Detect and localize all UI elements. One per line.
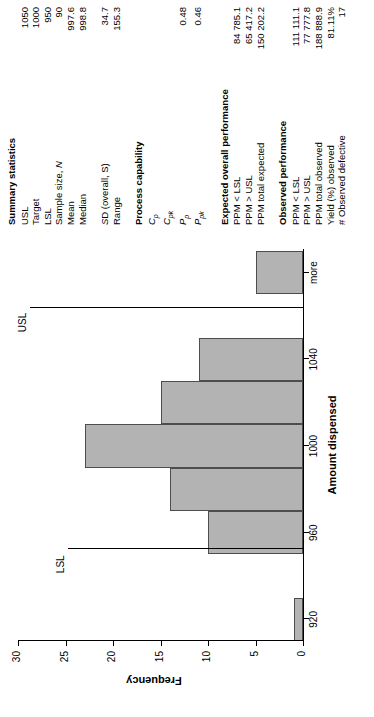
summary-label: USL <box>19 199 31 225</box>
summary-statistics-rows: USL1050Target1000LSL950Sample size, N90M… <box>19 7 89 225</box>
expected-performance-rows: PPM < LSL84 785.1PPM > USL65 417.2PPM to… <box>231 7 266 225</box>
observed-value: 17 <box>336 7 348 18</box>
summary-value: 950 <box>42 7 54 23</box>
capability-row: Cp <box>146 7 161 225</box>
summary-statistics-block-2: SD (overall, S)34.7Range155.3 <box>99 7 122 225</box>
summary-row: Median998.8 <box>77 7 89 225</box>
histogram-bar <box>170 468 303 511</box>
expected-row: PPM > USL65 417.2 <box>243 7 255 225</box>
expected-label: PPM < LSL <box>231 169 243 225</box>
y-axis-tick-label: 0 <box>296 651 307 681</box>
summary-statistics-rows-2: SD (overall, S)34.7Range155.3 <box>99 7 122 225</box>
y-axis-tick-label: 30 <box>11 651 22 681</box>
process-capability-block: Process capability CpCpkPp0.48Ppk0.46 <box>133 7 208 225</box>
spec-limit-label: LSL <box>55 555 66 573</box>
expected-performance-block: Expected overall performance PPM < LSL84… <box>219 7 266 225</box>
y-axis-tick <box>256 641 257 646</box>
observed-performance-rows: PPM < LSL111 111.1PPM > USL77 777.8PPM t… <box>290 7 348 225</box>
observed-label: PPM total observed <box>313 134 325 225</box>
observed-row: PPM total observed188 888.9 <box>313 7 325 225</box>
summary-statistics-title: Summary statistics <box>6 7 18 225</box>
observed-label: PPM < LSL <box>290 169 302 225</box>
observed-row: PPM < LSL111 111.1 <box>290 7 302 225</box>
histogram-bar <box>85 424 304 467</box>
summary2-label: Range <box>111 189 123 225</box>
y-axis-tick <box>208 641 209 646</box>
expected-value: 65 417.2 <box>243 7 255 44</box>
histogram-bar <box>256 251 304 294</box>
observed-value: 111 111.1 <box>290 7 302 46</box>
x-axis-tick-label: 1040 <box>308 337 319 381</box>
capability-value: 0.48 <box>177 7 192 26</box>
histogram-chart: 051015202530 92096010001040more LSLUSL A… <box>8 239 366 703</box>
summary2-row: SD (overall, S)34.7 <box>99 7 111 225</box>
expected-label: PPM total expected <box>255 135 267 225</box>
observed-value: 77 777.8 <box>301 7 313 44</box>
expected-row: PPM total expected150 202.2 <box>255 7 267 225</box>
summary-value: 997.6 <box>65 7 77 31</box>
observed-performance-title: Observed performance <box>277 7 289 225</box>
y-axis-tick <box>18 641 19 646</box>
summary-statistics-block: Summary statistics USL1050Target1000LSL9… <box>6 7 88 225</box>
expected-value: 150 202.2 <box>255 7 267 49</box>
summary-row: USL1050 <box>19 7 31 225</box>
observed-label: Yield (%) observed <box>325 137 337 225</box>
observed-value: 81.11% <box>325 7 337 39</box>
y-axis-title: Frequency <box>54 675 254 687</box>
spec-limit-line <box>30 307 304 308</box>
y-axis-tick <box>113 641 114 646</box>
summary2-label: SD (overall, S) <box>99 155 111 225</box>
summary-value: 1000 <box>30 7 42 28</box>
summary-row: Target1000 <box>30 7 42 225</box>
y-axis-tick <box>66 641 67 646</box>
summary2-value: 34.7 <box>99 7 111 26</box>
expected-label: PPM > USL <box>243 167 255 225</box>
summary-label: Median <box>77 186 89 225</box>
expected-performance-title: Expected overall performance <box>219 7 231 225</box>
process-capability-rows: CpCpkPp0.48Ppk0.46 <box>146 7 208 225</box>
observed-row: PPM > USL77 777.8 <box>301 7 313 225</box>
plot-area <box>18 251 303 641</box>
y-axis-tick <box>161 641 162 646</box>
summary2-row: Range155.3 <box>111 7 123 225</box>
capability-value: 0.46 <box>192 7 207 26</box>
y-axis-tick <box>303 641 304 646</box>
x-axis-tick-label: more <box>308 251 319 295</box>
expected-value: 84 785.1 <box>231 7 243 44</box>
observed-row: Yield (%) observed81.11% <box>325 7 337 225</box>
statistics-panel: Summary statistics USL1050Target1000LSL9… <box>6 7 359 225</box>
capability-row: Ppk0.46 <box>192 7 207 225</box>
summary-value: 998.8 <box>77 7 89 31</box>
x-axis-title: Amount dispensed <box>326 249 338 641</box>
summary-value: 90 <box>53 7 65 18</box>
x-axis-tick-label: 960 <box>308 511 319 555</box>
spec-limit-label: USL <box>17 313 28 332</box>
summary-row: Sample size, N90 <box>53 7 65 225</box>
histogram-bar <box>294 598 304 641</box>
capability-symbol: Cpk <box>161 203 176 225</box>
summary-value: 1050 <box>19 7 31 28</box>
summary-row: Mean997.6 <box>65 7 77 225</box>
capability-symbol: Pp <box>177 207 192 225</box>
expected-row: PPM < LSL84 785.1 <box>231 7 243 225</box>
capability-symbol: Cp <box>146 206 161 225</box>
capability-symbol: Ppk <box>192 203 207 225</box>
summary-label: Target <box>30 191 42 225</box>
observed-performance-block: Observed performance PPM < LSL111 111.1P… <box>277 7 348 225</box>
process-capability-title: Process capability <box>133 7 145 225</box>
observed-value: 188 888.9 <box>313 7 325 49</box>
capability-row: Cpk <box>161 7 176 225</box>
summary-label: Mean <box>65 193 77 225</box>
summary-label: Sample size, N <box>53 153 65 225</box>
summary-label: LSL <box>42 200 54 225</box>
observed-row: # Observed defective17 <box>336 7 348 225</box>
capability-figure: 051015202530 92096010001040more LSLUSL A… <box>0 0 374 717</box>
capability-row: Pp0.48 <box>177 7 192 225</box>
histogram-bar <box>161 381 304 424</box>
x-axis-tick-label: 1000 <box>308 424 319 468</box>
observed-label: # Observed defective <box>336 127 348 225</box>
histogram-bar <box>199 338 304 381</box>
spec-limit-line <box>68 548 304 549</box>
summary-row: LSL950 <box>42 7 54 225</box>
summary2-value: 155.3 <box>111 7 123 31</box>
